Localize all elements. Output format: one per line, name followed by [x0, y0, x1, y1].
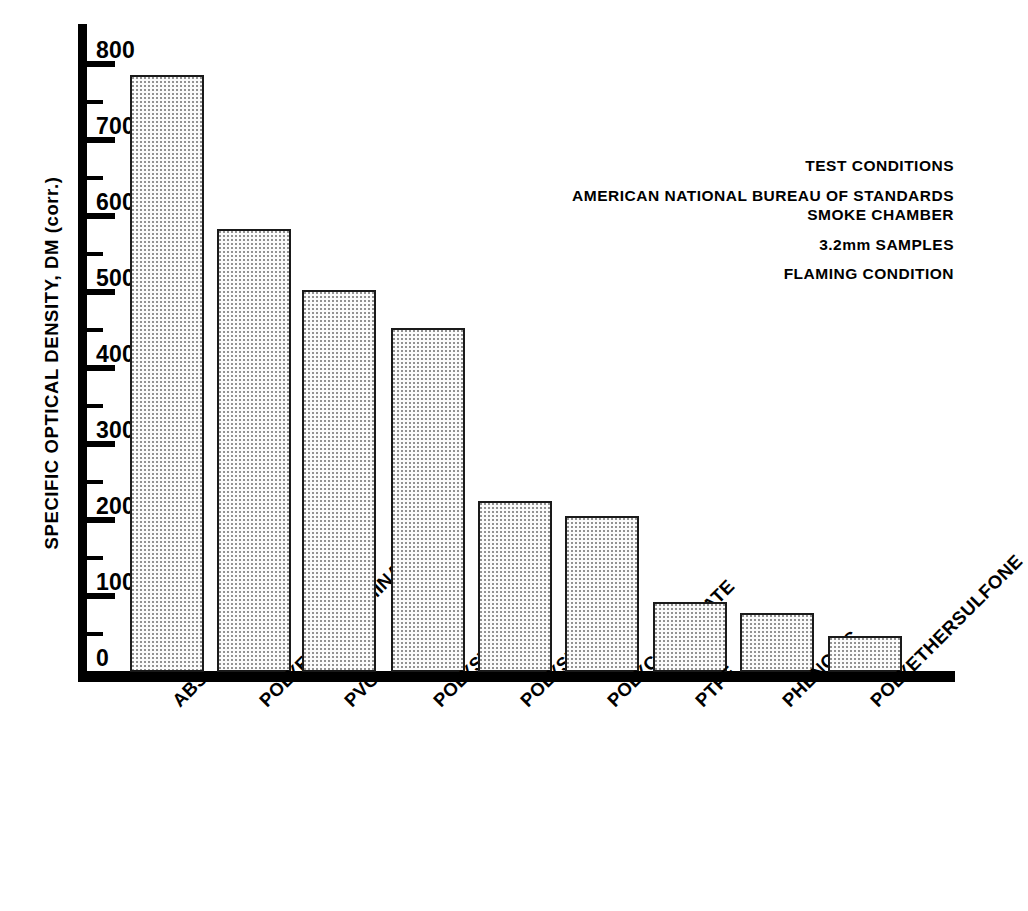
annotation-line-4: 3.2mm SAMPLES	[572, 237, 954, 253]
bar-phenolic	[740, 613, 814, 672]
annotation-line-2: AMERICAN NATIONAL BUREAU OF STANDARDS	[572, 188, 954, 204]
bar-polyethersulfone	[828, 636, 902, 672]
bar-ptfe	[653, 602, 727, 672]
bar-polysulfone	[478, 501, 552, 672]
x-category-label-8: POLYETHERSULFONE	[866, 550, 1027, 711]
test-conditions-annotation: TEST CONDITIONS AMERICAN NATIONAL BUREAU…	[572, 158, 954, 282]
bar-polyester-laminate	[217, 229, 291, 672]
annotation-line-5: FLAMING CONDITION	[572, 266, 954, 282]
annotation-line-1: TEST CONDITIONS	[572, 158, 954, 174]
x-category-label-0: ABS	[168, 668, 212, 712]
x-category-label-2: PVC	[340, 668, 383, 711]
bar-polystyrene	[391, 328, 465, 672]
bar-abs	[130, 75, 204, 672]
annotation-line-3: SMOKE CHAMBER	[572, 207, 954, 223]
bar-polycarbonate	[565, 516, 639, 672]
bar-pvc	[302, 290, 376, 672]
